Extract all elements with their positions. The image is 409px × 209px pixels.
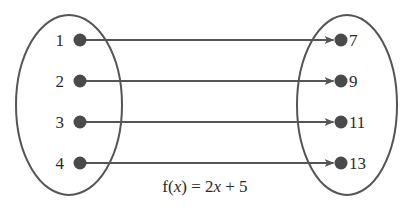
domain-label: 1: [56, 31, 65, 50]
range-dot: [335, 34, 348, 47]
range-dot: [335, 157, 348, 170]
domain-dot: [74, 157, 87, 170]
range-points: 791113: [335, 31, 367, 173]
range-label: 13: [349, 154, 366, 173]
domain-label: 3: [56, 113, 65, 132]
domain-dot: [74, 75, 87, 88]
range-label: 11: [349, 113, 365, 132]
function-formula: f(x) = 2x + 5: [162, 177, 247, 196]
domain-dot: [74, 116, 87, 129]
domain-dot: [74, 34, 87, 47]
domain-label: 4: [56, 154, 65, 173]
range-label: 9: [349, 72, 358, 91]
domain-label: 2: [56, 72, 65, 91]
domain-set-ellipse: [16, 15, 122, 195]
domain-points: 1234: [56, 31, 87, 173]
function-mapping-diagram: 1234 791113 f(x) = 2x + 5: [0, 0, 409, 209]
range-label: 7: [349, 31, 358, 50]
range-dot: [335, 116, 348, 129]
range-dot: [335, 75, 348, 88]
